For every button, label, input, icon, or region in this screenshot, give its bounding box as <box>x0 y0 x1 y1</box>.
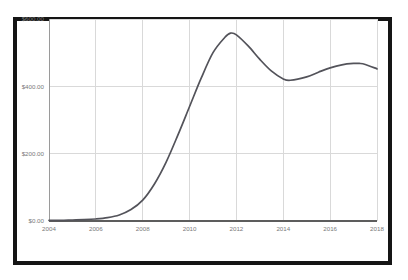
x-tick-label-2008: 2008 <box>136 225 150 232</box>
x-tick-label-2014: 2014 <box>276 225 290 232</box>
plot-background <box>49 19 377 221</box>
line-chart: $0.00$200.00$400.00$600.00 2004200620082… <box>0 0 395 263</box>
x-tick-label-2012: 2012 <box>230 225 244 232</box>
x-tick-label-2010: 2010 <box>183 225 197 232</box>
y-tick-label-400: $400.00 <box>22 83 45 90</box>
y-tick-label-200: $200.00 <box>22 150 45 157</box>
x-tick-label-2016: 2016 <box>323 225 337 232</box>
x-tick-label-2006: 2006 <box>89 225 103 232</box>
x-tick-label-2004: 2004 <box>42 225 56 232</box>
y-tick-label-0: $0.00 <box>29 217 45 224</box>
y-axis-tick-labels: $0.00$200.00$400.00$600.00 <box>22 15 45 224</box>
y-tick-label-600: $600.00 <box>22 15 45 22</box>
x-axis-tick-labels: 20042006200820102012201420162018 <box>42 225 384 232</box>
screenshot-root: $0.00$200.00$400.00$600.00 2004200620082… <box>0 0 408 280</box>
x-tick-label-2018: 2018 <box>370 225 384 232</box>
